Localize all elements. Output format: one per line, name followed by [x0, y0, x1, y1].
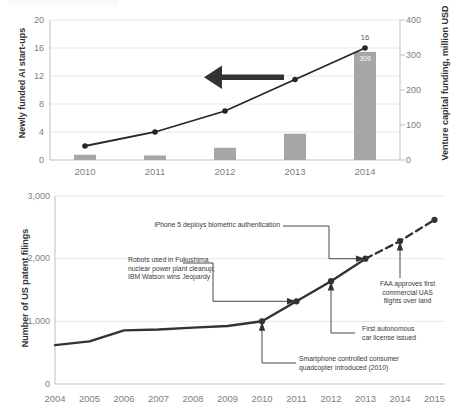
leader-car [331, 290, 355, 333]
top-right-tick-200: 200 [406, 85, 421, 95]
top-left-tick-4: 4 [24, 127, 44, 137]
bottom-x-tick-2015: 2015 [419, 393, 451, 404]
bar-2010 [74, 155, 96, 160]
bar-2013 [284, 134, 306, 160]
top-right-tick-300: 300 [406, 50, 421, 60]
marker-2015 [431, 217, 437, 223]
top-left-tick-0: 0 [24, 155, 44, 165]
top-chart-right-axis-title: Venture capital funding, million USD [440, 0, 450, 167]
marker-2013 [292, 77, 298, 83]
top-left-tick-12: 12 [24, 71, 44, 81]
annotation-quad-line2: quadcopter introduced (2010) [299, 364, 459, 373]
annotation-faa-line3: flights over land [360, 297, 455, 306]
top-chart-plot: 309 16 [50, 20, 400, 162]
bottom-x-tick-2011: 2011 [281, 393, 313, 404]
top-x-tick-2010: 2010 [69, 166, 101, 177]
bar-2012 [214, 148, 236, 160]
bottom-x-tick-2013: 2013 [350, 393, 382, 404]
top-chart-bars [74, 52, 376, 160]
top-left-tick-8: 8 [24, 99, 44, 109]
top-chart-line-markers [82, 45, 368, 149]
top-chart-right-ticks [400, 20, 405, 160]
top-left-tick-16: 16 [24, 43, 44, 53]
left-pointing-arrow-icon [204, 66, 284, 90]
annotation-fukushima-line2: nuclear power plant cleanup; [128, 265, 246, 274]
line-2014-value-label: 16 [361, 33, 369, 42]
bar-2011 [144, 155, 166, 160]
top-x-tick-2011: 2011 [139, 166, 171, 177]
bottom-x-tick-2008: 2008 [177, 393, 209, 404]
leader-iphone [283, 226, 357, 259]
top-chart-combo: Newly funded AI start-ups Venture capita… [0, 0, 461, 185]
cropped-title-artifact [8, 0, 118, 5]
bottom-y-tick-3000: 3,000 [16, 191, 50, 201]
bottom-x-tick-2004: 2004 [39, 393, 71, 404]
annotation-iphone5-biometric: iPhone 5 deploys biometric authenticatio… [140, 221, 280, 230]
marker-2010 [82, 143, 88, 149]
annotation-quad-line1: Smartphone controlled consumer [299, 355, 459, 364]
top-right-tick-0: 0 [406, 155, 411, 165]
top-right-tick-100: 100 [406, 120, 421, 130]
bottom-chart-line: Number of US patent filings 3,000 2,000 … [0, 188, 461, 417]
top-right-tick-400: 400 [406, 15, 421, 25]
bottom-chart-y-axis-title: Number of US patent filings [20, 218, 30, 358]
bottom-y-tick-2000: 2,000 [16, 253, 50, 263]
bottom-x-tick-2014: 2014 [384, 393, 416, 404]
top-x-tick-2012: 2012 [209, 166, 241, 177]
bottom-x-tick-2005: 2005 [74, 393, 106, 404]
annotation-faa-line2: commercial UAS [360, 289, 455, 298]
bar-2014 [354, 52, 376, 160]
annotation-car-line2: car license issued [362, 334, 457, 343]
top-x-tick-2014: 2014 [349, 166, 381, 177]
annotation-car-line1: First autonomous [362, 325, 457, 334]
bottom-y-tick-1000: 1,000 [16, 316, 50, 326]
bottom-x-tick-2006: 2006 [108, 393, 140, 404]
leader-quadcopter [262, 330, 296, 363]
annotation-autonomous-car: First autonomous car license issued [362, 325, 457, 342]
annotation-faa-line1: FAA approves first [360, 280, 455, 289]
top-chart-left-axis-title: Newly funded AI start-ups [17, 23, 27, 143]
top-left-tick-20: 20 [24, 15, 44, 25]
bottom-x-tick-2009: 2009 [212, 393, 244, 404]
annotation-faa-uas: FAA approves first commercial UAS flight… [360, 280, 455, 306]
marker-2011 [152, 129, 158, 135]
bottom-x-tick-2012: 2012 [315, 393, 347, 404]
bar-2014-value-label: 309 [359, 55, 371, 62]
bottom-x-tick-2007: 2007 [143, 393, 175, 404]
marker-2012 [222, 108, 228, 114]
annotation-fukushima-watson: Robots used in Fukushima nuclear power p… [128, 256, 246, 282]
annotation-fukushima-line1: Robots used in Fukushima [128, 256, 246, 265]
top-x-tick-2013: 2013 [279, 166, 311, 177]
bottom-y-tick-0: 0 [16, 379, 50, 389]
annotation-fukushima-line3: IBM Watson wins Jeopardy [128, 273, 246, 282]
top-chart-line-series [85, 48, 365, 146]
marker-2014 [362, 45, 368, 51]
annotation-quadcopter: Smartphone controlled consumer quadcopte… [299, 355, 459, 372]
bottom-x-tick-2010: 2010 [246, 393, 278, 404]
